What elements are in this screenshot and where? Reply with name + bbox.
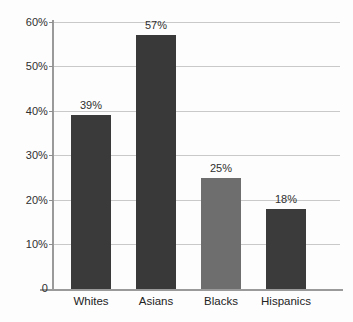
bar-blacks-fill <box>201 178 241 289</box>
y-tick-label-20: 20% <box>4 195 48 206</box>
gridline-40 <box>53 111 340 112</box>
y-tick-label-50: 50% <box>4 61 48 72</box>
y-tick-mark-10 <box>49 244 53 245</box>
y-tick-label-0: 0 <box>4 283 48 294</box>
bar-value-hispanics: 18% <box>266 194 306 205</box>
bar-chart: 60% 50% 40% 30% 20% 10% 0 39% 57% <box>0 0 353 322</box>
y-tick-mark-60 <box>49 22 53 23</box>
y-tick-label-40: 40% <box>4 106 48 117</box>
bar-asians[interactable] <box>136 35 176 289</box>
bar-blacks[interactable] <box>201 178 241 289</box>
category-label-blacks: Blacks <box>186 295 256 307</box>
bar-value-blacks: 25% <box>201 163 241 174</box>
bar-asians-fill <box>136 35 176 289</box>
bar-whites-fill <box>71 115 111 289</box>
category-label-asians: Asians <box>121 295 191 307</box>
bar-whites[interactable] <box>71 115 111 289</box>
y-tick-mark-30 <box>49 155 53 156</box>
category-label-hispanics: Hispanics <box>251 295 321 307</box>
y-tick-mark-50 <box>49 66 53 67</box>
y-tick-label-30: 30% <box>4 150 48 161</box>
gridline-60 <box>53 22 340 23</box>
y-tick-mark-40 <box>49 111 53 112</box>
y-tick-mark-20 <box>49 200 53 201</box>
bar-value-asians: 57% <box>136 20 176 31</box>
bar-hispanics[interactable] <box>266 209 306 289</box>
y-tick-label-10: 10% <box>4 239 48 250</box>
gridline-50 <box>53 66 340 67</box>
category-label-whites: Whites <box>56 295 126 307</box>
y-tick-label-60: 60% <box>4 17 48 28</box>
bar-value-whites: 39% <box>71 100 111 111</box>
x-axis-line <box>40 289 343 291</box>
bar-hispanics-fill <box>266 209 306 289</box>
